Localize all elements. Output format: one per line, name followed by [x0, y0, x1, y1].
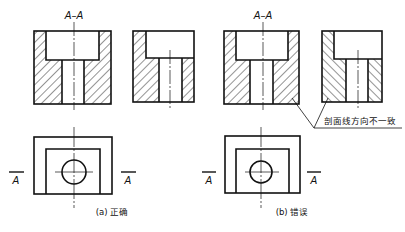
caption-a: (a) 正确 — [96, 207, 129, 217]
top-view-b — [225, 127, 300, 208]
caption-b: (b) 错误 — [276, 207, 309, 217]
cut-marker-right-a: A — [121, 172, 136, 186]
svg-text:A: A — [124, 175, 132, 186]
section-title-a: A–A — [64, 10, 84, 21]
section-view-b-half — [322, 31, 382, 110]
annotation-text: 剖面线方向不一致 — [324, 116, 396, 126]
svg-text:A: A — [310, 175, 318, 186]
panel-b: A–A 剖面线方向不一致 — [202, 10, 402, 217]
cut-marker-left-b: A — [202, 172, 216, 186]
cut-marker-right-b: A — [307, 172, 321, 186]
section-view-a-half — [133, 31, 194, 110]
section-title-b: A–A — [253, 10, 273, 21]
cut-marker-left-a: A — [9, 172, 24, 186]
section-view-a-full — [34, 22, 111, 110]
section-view-diagram: A–A A — [0, 0, 405, 232]
svg-text:A: A — [205, 175, 213, 186]
svg-text:A: A — [12, 175, 20, 186]
top-view-a — [34, 127, 112, 208]
section-view-b-full — [224, 22, 299, 110]
panel-a: A–A A — [9, 10, 194, 217]
